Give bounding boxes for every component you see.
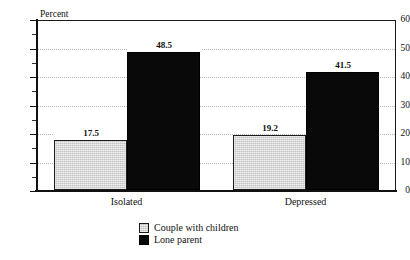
bar	[306, 72, 379, 190]
bar-chart-figure: 0102030405060 Percent 17.548.519.241.5 I…	[0, 0, 410, 260]
legend-label: Lone parent	[154, 234, 202, 245]
y-axis-title: Percent	[39, 9, 70, 19]
bar-value-label: 17.5	[54, 129, 129, 138]
y-tick-mark	[30, 49, 36, 50]
y-tick-mark	[30, 191, 36, 192]
x-axis-line	[35, 190, 397, 192]
y-minor-tick-mark	[32, 63, 36, 64]
y-minor-tick-mark	[32, 34, 36, 35]
bars-layer: 17.548.519.241.5	[37, 21, 395, 190]
y-tick-mark	[30, 163, 36, 164]
y-minor-tick-mark	[32, 120, 36, 121]
bar-value-label: 48.5	[127, 41, 202, 50]
y-minor-tick-mark	[32, 148, 36, 149]
y-tick-mark	[30, 77, 36, 78]
bar	[54, 140, 127, 190]
legend-item: Lone parent	[139, 234, 271, 245]
legend-swatch-icon	[139, 235, 149, 245]
y-tick-mark	[30, 134, 36, 135]
x-category-label: Isolated	[37, 196, 216, 207]
legend-swatch-icon	[139, 223, 149, 233]
y-tick-mark	[30, 20, 36, 21]
chart-legend: Couple with childrenLone parent	[0, 222, 410, 245]
y-minor-tick-mark	[32, 177, 36, 178]
x-category-label: Depressed	[216, 196, 395, 207]
bar	[127, 52, 200, 190]
bar-value-label: 19.2	[233, 124, 308, 133]
bar	[233, 135, 306, 190]
y-minor-tick-mark	[32, 91, 36, 92]
legend-item: Couple with children	[139, 222, 271, 233]
bar-value-label: 41.5	[306, 61, 381, 70]
legend-label: Couple with children	[154, 222, 238, 233]
y-tick-mark	[30, 106, 36, 107]
